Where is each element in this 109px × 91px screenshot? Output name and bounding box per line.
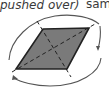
rotated-parallelogram-diagram bbox=[0, 0, 109, 91]
arrowhead-icon bbox=[96, 46, 100, 51]
rotation-arc-right bbox=[98, 26, 100, 49]
